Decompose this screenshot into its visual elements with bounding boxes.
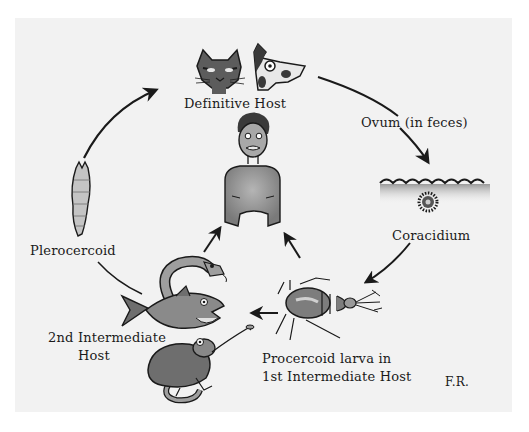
cat-icon — [195, 50, 245, 94]
artist-signature: F.R. — [445, 375, 469, 390]
arrow-to-human-right — [285, 234, 300, 258]
arrow-plerocercoid-to-host — [84, 90, 156, 158]
definitive-host-label: Definitive Host — [184, 96, 286, 111]
arrow-ovum-to-coracidium — [400, 128, 428, 162]
coracidium-label: Coracidium — [392, 228, 470, 243]
procercoid-label-line2: 1st Intermediate Host — [262, 369, 412, 384]
second-host-label-line1: 2nd Intermediate — [48, 330, 166, 345]
plerocercoid-label: Plerocercoid — [30, 243, 116, 258]
arrow-coracidium-to-procercoid — [366, 243, 410, 282]
ovum-label: Ovum (in feces) — [361, 115, 468, 130]
second-host-label-line2: Host — [78, 348, 110, 363]
human-icon — [225, 112, 280, 226]
procercoid-label-line1: Procercoid larva in — [262, 351, 391, 366]
dog-icon — [254, 44, 305, 90]
life-cycle-artwork — [0, 0, 529, 432]
arrow-to-human-left — [204, 228, 220, 252]
copepod-icon — [276, 278, 382, 340]
arrow-host-to-ovum — [318, 77, 398, 116]
plerocercoid-icon — [72, 162, 90, 236]
water-icon — [380, 180, 490, 205]
plerocercoid-leader-line — [98, 262, 142, 294]
